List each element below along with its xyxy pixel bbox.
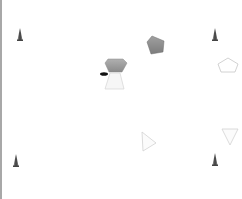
outline-pentagon-right: [218, 58, 238, 72]
outline-triangle-down-pointing: [222, 129, 238, 145]
cone-marker-bottom-left: [13, 154, 19, 167]
cone-marker-top-left: [17, 28, 23, 41]
black-agent: [100, 72, 108, 76]
light-triangle-center: [105, 73, 124, 89]
gray-pentagon-center: [105, 59, 127, 72]
cone-marker-top-right: [212, 28, 218, 41]
outline-triangle-right-pointing: [142, 132, 156, 151]
gray-pentagon-top: [147, 36, 164, 54]
cone-marker-bottom-right: [212, 153, 218, 166]
game-scene: [0, 0, 242, 199]
